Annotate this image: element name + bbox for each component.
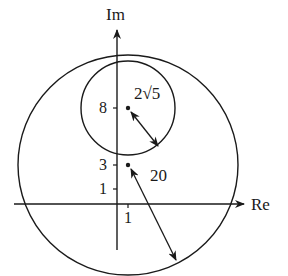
x-tick-1: 1	[124, 210, 132, 226]
y-axis-label: Im	[106, 6, 125, 23]
complex-plane-diagram: Im Re 8 3 1 1 2√5 20	[0, 0, 288, 276]
small-circle-center	[126, 106, 130, 110]
small-radius-arrow	[131, 112, 158, 146]
small-radius-label: 2√5	[134, 85, 160, 102]
large-radius-label: 20	[150, 167, 167, 184]
y-tick-8: 8	[99, 100, 107, 116]
large-circle-center	[126, 163, 130, 167]
x-axis-label: Re	[251, 196, 270, 213]
diagram-canvas	[0, 0, 288, 276]
y-tick-1: 1	[99, 181, 107, 197]
y-tick-3: 3	[99, 157, 107, 173]
